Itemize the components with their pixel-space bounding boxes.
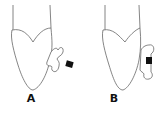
tooth-diagram-a xyxy=(0,0,83,115)
tooth-diagram-b xyxy=(83,0,166,115)
tooth-root-outline xyxy=(13,5,51,30)
panel-b: B xyxy=(83,0,166,115)
tooth-crown-outline xyxy=(11,28,52,90)
tooth-crown-outline xyxy=(102,28,140,90)
panel-a: A xyxy=(0,0,83,115)
panel-label-a: A xyxy=(21,92,41,105)
panel-label-b: B xyxy=(104,92,124,105)
tooth-root-outline xyxy=(105,5,140,30)
wire-slot-marker xyxy=(65,60,73,68)
wire-slot-marker xyxy=(146,57,152,64)
